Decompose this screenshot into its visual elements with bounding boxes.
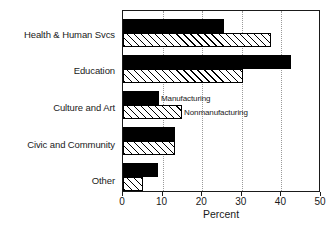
- bar-other-manufacturing: [123, 163, 158, 177]
- tick-label-50: 50: [305, 196, 331, 208]
- legend-item-nonmanufacturing: Nonmanufacturing: [184, 105, 248, 119]
- bar-education-nonmanufacturing: [123, 69, 243, 83]
- bar-chart: Health & Human Svcs Education Culture an…: [0, 0, 331, 227]
- bar-culture-and-art-manufacturing: [123, 91, 159, 105]
- tick-label-0: 0: [107, 196, 137, 208]
- legend-label-nonmanufacturing: Nonmanufacturing: [184, 108, 248, 117]
- bar-civic-and-community-manufacturing: [123, 127, 175, 141]
- bar-education-manufacturing: [123, 55, 291, 69]
- plot-area: Manufacturing Nonmanufacturing: [122, 10, 320, 192]
- plot-inner: Manufacturing Nonmanufacturing: [123, 11, 319, 191]
- category-axis-labels: Health & Human Svcs Education Culture an…: [0, 10, 119, 192]
- bar-civic-and-community-nonmanufacturing: [123, 141, 175, 155]
- tick-label-10: 10: [147, 196, 177, 208]
- gridline-40: [281, 11, 282, 191]
- category-label-other: Other: [0, 176, 115, 186]
- tick-label-40: 40: [265, 196, 295, 208]
- category-label-health-human-svcs: Health & Human Svcs: [0, 30, 115, 40]
- category-label-education: Education: [0, 66, 115, 76]
- bar-culture-and-art-nonmanufacturing: [123, 105, 182, 119]
- category-label-culture-and-art: Culture and Art: [0, 103, 115, 113]
- bar-other-nonmanufacturing: [123, 177, 143, 191]
- category-label-civic-and-community: Civic and Community: [0, 140, 115, 150]
- x-axis-title: Percent: [122, 208, 320, 220]
- tick-label-30: 30: [226, 196, 256, 208]
- tick-label-20: 20: [186, 196, 216, 208]
- bar-health-human-svcs-nonmanufacturing: [123, 33, 271, 47]
- bar-health-human-svcs-manufacturing: [123, 19, 224, 33]
